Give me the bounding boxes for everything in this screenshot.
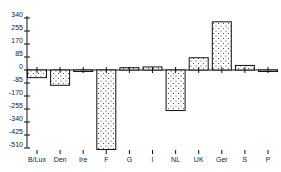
y-tick-label: -255 <box>9 102 23 109</box>
x-tick-label: S <box>243 156 248 163</box>
y-tick-label: 85 <box>15 50 23 57</box>
x-tick-label: NL <box>171 156 180 163</box>
x-axis: B/LuxDenIreFGINLUKGerSP <box>28 150 271 163</box>
x-tick-label: Ger <box>216 156 228 163</box>
x-tick-label: UK <box>194 156 204 163</box>
x-tick-label: B/Lux <box>28 156 46 163</box>
bar-chart: 340255170850-85-170-255-340-425-510 B/Lu… <box>0 0 281 172</box>
bar-ger <box>212 22 231 70</box>
x-tick-label: Ire <box>79 156 87 163</box>
y-tick-label: 340 <box>11 11 23 18</box>
x-tick-label: G <box>127 156 132 163</box>
x-tick-label: I <box>152 156 154 163</box>
y-axis: 340255170850-85-170-255-340-425-510 <box>9 11 278 149</box>
y-tick-label: -170 <box>9 89 23 96</box>
bars <box>28 22 278 150</box>
y-tick-label: -425 <box>9 128 23 135</box>
y-tick-label: 255 <box>11 24 23 31</box>
x-tick-label: F <box>104 156 108 163</box>
y-tick-label: -510 <box>9 141 23 148</box>
bar-nl <box>166 70 185 111</box>
y-tick-label: 0 <box>19 63 23 70</box>
y-tick-label: -340 <box>9 115 23 122</box>
bar-f <box>97 70 116 150</box>
x-tick-label: P <box>266 156 271 163</box>
x-tick-label: Den <box>54 156 67 163</box>
y-tick-label: 170 <box>11 37 23 44</box>
y-tick-label: -85 <box>13 76 23 83</box>
